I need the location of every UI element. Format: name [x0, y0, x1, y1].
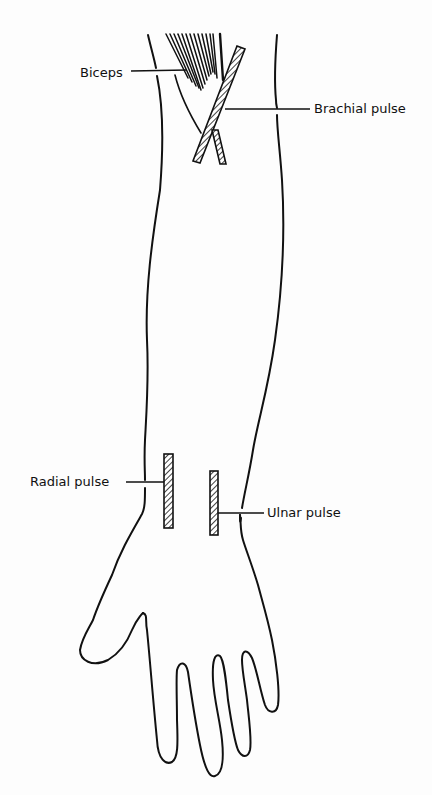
label-ulnar-pulse: Ulnar pulse [267, 505, 341, 521]
arm-outline-right-upper [275, 35, 277, 108]
biceps-fibres [166, 34, 223, 90]
arm-diagram [0, 0, 432, 795]
arm-outline-right-wrist [240, 515, 241, 521]
biceps-leader [131, 70, 187, 71]
arm-outline-right [242, 115, 283, 508]
ulnar-artery-bar [210, 471, 218, 535]
radial-artery-bar [164, 454, 173, 528]
brachial-artery-branch [212, 130, 226, 164]
brachial-artery [193, 46, 245, 164]
label-radial-pulse: Radial pulse [30, 474, 109, 490]
label-biceps: Biceps [80, 65, 123, 81]
arm-outline-left-lower [80, 488, 145, 663]
label-brachial-pulse: Brachial pulse [314, 101, 406, 117]
arm-outline-left-upper [148, 35, 156, 68]
hand-fingers [143, 515, 279, 776]
arm-outline-left [145, 76, 163, 480]
